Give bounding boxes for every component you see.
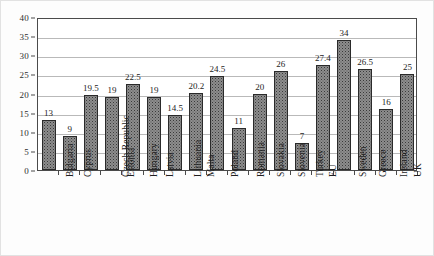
bar-value-label: 24.5	[210, 65, 226, 74]
x-axis-label-slot: Lithuania	[164, 175, 185, 256]
bar-slot: 24.5	[207, 19, 228, 170]
y-axis-tick-mark	[31, 151, 35, 152]
y-axis-tick-mark	[31, 18, 35, 19]
bar-value-label: 16	[382, 98, 391, 107]
y-axis-tick-mark	[31, 75, 35, 76]
bar-value-label: 22.5	[125, 73, 141, 82]
y-axis-tick-mark	[31, 37, 35, 38]
y-axis-tick-mark	[31, 171, 35, 172]
bar-value-label: 34	[340, 29, 349, 38]
bar-slot: 25	[397, 19, 418, 170]
x-axis-label-slot: Bulgaria	[37, 175, 58, 256]
x-axis-category-label: Cyprus	[83, 149, 93, 177]
x-axis-category-label: Slovenia	[297, 143, 307, 177]
x-axis-category-label: Greece	[378, 150, 388, 178]
x-axis-category-label: Hungary	[149, 143, 159, 177]
bar-value-label: 9	[67, 125, 72, 134]
bar-slot: 13	[38, 19, 59, 170]
bar-value-label: 19.5	[83, 84, 99, 93]
bar-slot: 14.5	[165, 19, 186, 170]
x-axis-category-label: Turkey	[315, 149, 325, 177]
x-axis-category-label: Slovakia	[276, 143, 286, 177]
y-axis-tick-label: 25	[20, 71, 29, 80]
y-axis-tick-mark	[31, 56, 35, 57]
bar-slot: 19.5	[80, 19, 101, 170]
y-axis-tick-mark	[31, 113, 35, 114]
x-axis-label-slot: Sweden	[333, 175, 354, 256]
y-axis-tick-label: 15	[20, 109, 29, 118]
x-axis-category-label: Sweden	[358, 146, 368, 177]
bar-value-label: 14.5	[167, 104, 183, 113]
x-axis-label-slot: Czech Republic	[79, 175, 100, 256]
bar-value-label: 19	[150, 86, 159, 95]
x-axis-label-slot: Romania	[227, 175, 248, 256]
x-axis-category-label: Malta	[207, 154, 217, 177]
y-axis-tick-label: 0	[24, 167, 29, 176]
bar-slot: 16	[376, 19, 397, 170]
bar-value-label: 13	[44, 109, 53, 118]
bar-value-label: 7	[300, 132, 305, 141]
x-axis-label-slot: UK	[396, 175, 417, 256]
x-axis-label-slot: Hungary	[121, 175, 142, 256]
bar-value-label: 26	[276, 60, 285, 69]
x-axis-category-label: Lithuania	[193, 140, 203, 177]
chart-figure: 0510152025303540 13919.51922.51914.520.2…	[0, 0, 434, 256]
x-axis-label-slot: Ireland	[375, 175, 396, 256]
x-axis-category-label: Romania	[255, 142, 265, 177]
x-axis-category-label: Ireland	[399, 149, 409, 177]
bar-slot: 27.4	[312, 19, 333, 170]
x-axis-label-slot: Poland	[206, 175, 227, 256]
bar[interactable]	[42, 120, 56, 170]
x-axis-label-slot: Greece	[354, 175, 375, 256]
x-axis-category-label: Estonia	[125, 148, 135, 177]
bar-slot: 34	[334, 19, 355, 170]
y-axis-tick-label: 20	[20, 90, 29, 99]
bar-slot: 19	[101, 19, 122, 170]
y-axis: 0510152025303540	[1, 18, 35, 171]
bar-value-label: 20.2	[188, 82, 204, 91]
bar-value-label: 19	[107, 86, 116, 95]
x-axis-label-slot: Estonia	[100, 175, 121, 256]
x-axis-category-label: Latvia	[166, 152, 176, 177]
bar-value-label: 11	[234, 117, 243, 126]
bar[interactable]	[105, 97, 119, 170]
y-axis-tick-label: 40	[20, 14, 29, 23]
x-axis-label-slot: EU	[311, 175, 332, 256]
x-axis-category-label: Poland	[230, 150, 240, 177]
bar-value-label: 26.5	[357, 58, 373, 67]
x-axis-label-slot: Latvia	[143, 175, 164, 256]
y-axis-tick-mark	[31, 94, 35, 95]
bar-value-label: 25	[403, 63, 412, 72]
y-axis-tick-label: 5	[24, 147, 29, 156]
y-axis-tick-mark	[31, 132, 35, 133]
bar-value-label: 27.4	[315, 54, 331, 63]
x-axis-category-label: Bulgaria	[64, 143, 74, 177]
x-axis-labels: BulgariaCyprusCzech RepublicEstoniaHunga…	[37, 175, 417, 256]
bar-slot: 11	[228, 19, 249, 170]
x-axis-label-slot: Turkey	[290, 175, 311, 256]
x-axis-label-slot: Slovenia	[269, 175, 290, 256]
y-axis-tick-label: 30	[20, 52, 29, 61]
y-axis-tick-label: 10	[20, 128, 29, 137]
x-axis-label-slot: Slovakia	[248, 175, 269, 256]
x-axis-label-slot: Cyprus	[58, 175, 79, 256]
x-axis-label-slot: Malta	[185, 175, 206, 256]
x-axis-category-label: UK	[413, 163, 423, 177]
bar-value-label: 20	[255, 83, 264, 92]
bar[interactable]	[337, 40, 351, 170]
y-axis-tick-label: 35	[20, 33, 29, 42]
